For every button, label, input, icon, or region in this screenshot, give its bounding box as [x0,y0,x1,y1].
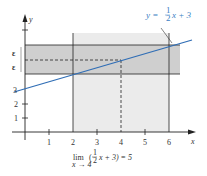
svg-text:2: 2 [93,156,97,165]
epsilon-lower: ε [12,63,16,72]
x-tick-2: 2 [71,138,75,147]
epsilon-upper: ε [12,49,16,58]
y-tick-2: 2 [14,100,18,109]
svg-text:(: ( [89,153,92,162]
limit-caption: lim x → 4 ( 1 2 x + 3) = 5 [71,148,132,169]
svg-text:x + 3: x + 3 [171,10,192,20]
svg-text:2: 2 [166,13,171,23]
y-axis-arrow-icon [23,14,28,22]
x-axis-label: x [190,137,195,146]
svg-text:x + 3) = 5: x + 3) = 5 [98,153,132,162]
x-tick-3: 3 [95,138,99,147]
x-tick-1: 1 [47,138,51,147]
y-tick-1: 1 [14,114,18,123]
y-tick-3: 3 [13,86,17,95]
svg-text:y =: y = [145,10,158,20]
x-tick-6: 6 [167,138,171,147]
x-tick-4: 4 [119,138,123,147]
epsilon-band [25,45,180,74]
equation-label: y = 1 2 x + 3 [145,5,192,23]
x-axis-arrow-icon [188,130,196,135]
x-tick-5: 5 [143,138,147,147]
limit-diagram: y x 1 2 3 4 5 6 1 2 3 ε ε y = 1 2 x + 3 … [0,0,207,176]
y-axis-label: y [28,15,33,24]
